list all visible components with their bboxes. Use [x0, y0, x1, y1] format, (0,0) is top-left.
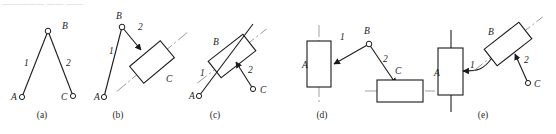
pin-joint-C-c	[250, 86, 255, 91]
label-B-d: B	[364, 26, 370, 36]
caption-a: (a)	[37, 110, 48, 120]
label-C-b: C	[166, 74, 173, 84]
figure-a: A B C 1 2	[10, 21, 76, 102]
pin-joint-A-c	[196, 93, 201, 98]
slider-block-B-c	[191, 21, 273, 92]
figure-sheet: ————— —— —— A B C 1 2	[0, 0, 556, 134]
link-1-d	[334, 44, 369, 64]
label-B-b: B	[116, 11, 122, 21]
label-link-2-e: 2	[524, 55, 529, 65]
label-A-b: A	[93, 92, 100, 102]
label-link-2-b: 2	[138, 22, 143, 32]
label-link-1-e: 1	[470, 60, 475, 70]
label-A-e: A	[433, 68, 440, 78]
link-1-e	[463, 58, 492, 71]
caption-c: (c)	[210, 110, 221, 120]
link-1-b	[104, 27, 122, 97]
label-link-1-b: 1	[109, 46, 114, 56]
link-1-c	[199, 24, 253, 96]
block-body-A-d	[307, 41, 331, 87]
caption-d: (d)	[316, 110, 327, 120]
block-body-A-e	[438, 48, 463, 95]
figure-c: A C B 1 2	[188, 21, 273, 101]
caption-b: (b)	[112, 110, 123, 120]
label-A-d: A	[301, 60, 308, 70]
pin-joint-B-d	[366, 41, 372, 47]
label-link-2-d: 2	[383, 54, 388, 64]
block-body-C-d	[377, 80, 423, 102]
pin-joint-C-a	[70, 93, 75, 98]
label-B-c: B	[213, 37, 219, 47]
label-A-a: A	[10, 92, 17, 102]
label-C-a: C	[61, 92, 68, 102]
figure-b: A B C 1 2	[93, 11, 194, 102]
caption-e: (e)	[478, 110, 489, 120]
figure-d: A B C 1 2	[301, 25, 435, 103]
figure-e: A B C 1 2	[433, 9, 549, 112]
pin-joint-A-a	[19, 94, 24, 99]
slider-block-C-b	[110, 24, 195, 100]
label-C-e: C	[534, 79, 541, 89]
label-link-1-c: 1	[200, 68, 205, 78]
label-link-1-d: 1	[340, 32, 345, 42]
pin-joint-B-b	[119, 24, 125, 30]
label-link-1-a: 1	[24, 58, 29, 68]
pin-joint-B-a	[45, 28, 51, 34]
label-link-2-c: 2	[248, 65, 253, 75]
label-B-a: B	[62, 21, 68, 31]
pin-joint-A-b	[101, 94, 106, 99]
label-link-2-a: 2	[66, 58, 71, 68]
link-2-d	[369, 44, 396, 84]
pin-joint-C-e	[525, 80, 530, 85]
label-B-e: B	[488, 27, 494, 37]
label-A-c: A	[188, 91, 195, 101]
mechanism-diagrams-svg: A B C 1 2 A B C 1 2	[0, 0, 556, 134]
label-C-c: C	[260, 85, 267, 95]
label-C-d: C	[395, 66, 402, 76]
